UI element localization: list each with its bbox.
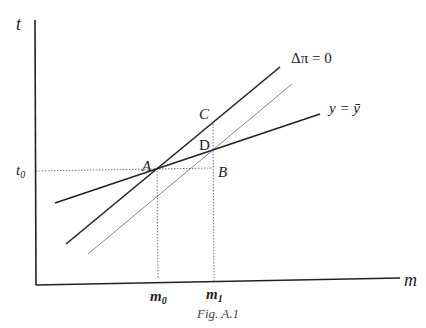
x-axis-label: m [404, 270, 417, 291]
dpi-zero-line [66, 67, 280, 244]
x-axis [36, 278, 400, 285]
m1-tick-label: m1 [206, 286, 223, 304]
y-bar-line [55, 114, 320, 203]
t0-guide [36, 168, 213, 171]
shifted-dpi-line [88, 84, 292, 254]
point-b-label: B [218, 164, 227, 181]
t0-tick-label: t0 [16, 162, 25, 180]
point-d-label: D [199, 137, 210, 154]
y-axis [35, 20, 36, 285]
dpi-zero-label: Δπ = 0 [291, 50, 332, 67]
m0-guide [157, 168, 158, 279]
figure-caption: Fig. A.1 [197, 306, 239, 322]
m0-tick-label: m0 [150, 288, 167, 306]
point-a-label: A [142, 158, 151, 175]
y-axis-label: t [16, 14, 21, 35]
m1-guide [213, 124, 214, 282]
point-c-label: C [199, 106, 209, 123]
y-bar-label: y = ȳ [329, 100, 360, 117]
diagram-canvas [0, 0, 426, 328]
